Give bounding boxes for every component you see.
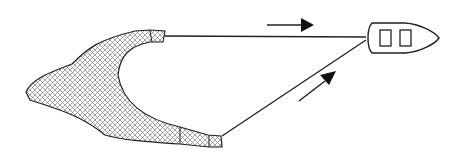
upper-tow-line bbox=[165, 36, 366, 37]
lower-tow-line bbox=[222, 40, 366, 136]
arrow-up-right-icon bbox=[299, 71, 336, 101]
boat-window-left bbox=[380, 30, 391, 46]
arrow-right-icon bbox=[267, 18, 314, 32]
net bbox=[26, 30, 222, 147]
diagram-canvas bbox=[0, 0, 465, 166]
boat-icon bbox=[368, 23, 439, 53]
boat-window-right bbox=[400, 30, 411, 46]
